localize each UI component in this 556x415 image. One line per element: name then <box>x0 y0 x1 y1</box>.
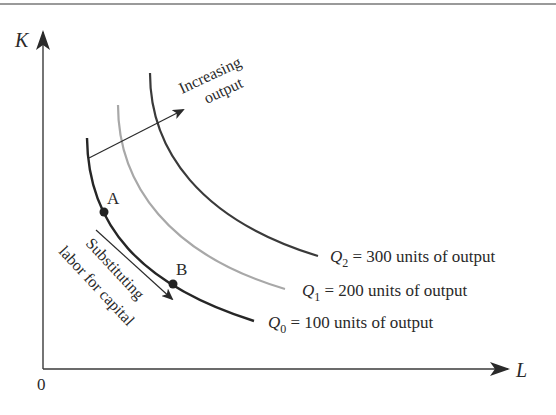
axes: K L 0 <box>14 29 527 394</box>
q2-label: Q2 = 300 units of output <box>330 247 496 270</box>
y-axis-label: K <box>14 29 30 51</box>
increasing-output-annotation: Increasing output <box>89 53 246 158</box>
substitution-annotation: Substituting labor for capital <box>55 230 172 330</box>
isoquant-q1 <box>118 105 285 289</box>
q1-label: Q1 = 200 units of output <box>302 281 468 304</box>
point-a <box>100 208 109 217</box>
q0-label: Q0 = 100 units of output <box>268 313 434 336</box>
x-axis-label: L <box>515 359 527 381</box>
isoquant-diagram: K L 0 A B Increasing output Substituting… <box>0 0 556 415</box>
isoquant-q2 <box>150 73 318 256</box>
point-b-label: B <box>176 260 187 279</box>
isoquant-labels: Q2 = 300 units of output Q1 = 200 units … <box>268 247 496 336</box>
origin-label: 0 <box>37 375 46 394</box>
point-b <box>169 280 178 289</box>
point-a-label: A <box>107 189 120 208</box>
